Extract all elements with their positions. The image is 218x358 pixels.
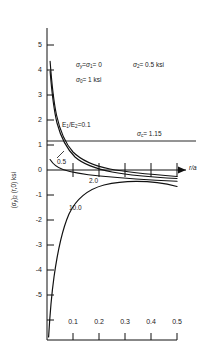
y-axis-title-sigma: σ (10, 202, 17, 206)
curve-label-leader-0-5 (57, 151, 64, 158)
x-axis-baseline-ticks (73, 333, 177, 340)
sigma-c-value: = 1.15 (143, 130, 161, 137)
curve-label-ratio-0-1: E1/E2=0.1 (62, 122, 91, 130)
curve-label-ratio-10-0: 10.0 (69, 205, 82, 212)
y-tick-label-3: 3 (28, 91, 42, 98)
sigma-c-label: σc= 1.15 (137, 131, 162, 139)
y-axis-title-tail: (r,0) ksi (10, 172, 17, 193)
y-tick-label-neg2: -2 (25, 216, 42, 223)
annotation-stress-row-3: σ0= 1 ksi (76, 77, 101, 85)
y-axis-title-open: ( (10, 206, 17, 208)
curve-ratio-10-0 (49, 181, 177, 337)
y-tick-label-2: 2 (28, 116, 42, 123)
sigma-0-value: = 1 ksi (83, 76, 102, 83)
y-tick-label-4: 4 (28, 66, 42, 73)
y-axis-title: (σy)2 (r,0) ksi (10, 145, 18, 235)
y-tick-label-1: 1 (28, 141, 42, 148)
y-tick-label-neg4: -4 (25, 266, 42, 273)
y-axis-ticks (47, 45, 54, 320)
y-tick-label-neg5: -5 (25, 291, 42, 298)
curve-ratio-0-1 (50, 61, 177, 176)
y-axis-title-sub-y: y (13, 200, 18, 202)
ratio-value-0-1: =0.1 (78, 121, 91, 128)
curve-label-ratio-2-0: 2.0 (89, 178, 98, 185)
x-axis-title: r/a (189, 165, 197, 172)
annotation-stress-row-1: σy=σ1= 0 (76, 62, 102, 70)
x-tick-label-0-3: 0.3 (115, 318, 135, 325)
y-axis-title-sub-2: 2 (13, 195, 18, 198)
sigma-1-value: = 0 (93, 61, 102, 68)
x-axis-arrowhead (178, 167, 186, 174)
x-tick-label-0-2: 0.2 (89, 318, 109, 325)
y-tick-label-neg3: -3 (25, 241, 42, 248)
y-tick-label-neg1: -1 (25, 191, 42, 198)
y-tick-label-5: 5 (28, 41, 42, 48)
x-tick-label-0-1: 0.1 (63, 318, 83, 325)
x-tick-label-0-4: 0.4 (141, 318, 161, 325)
annotation-stress-row-2: σ2= 0.5 ksi (133, 62, 164, 70)
plot-canvas (0, 0, 218, 358)
curve-label-ratio-0-5: 0.5 (57, 159, 66, 166)
y-tick-label-0: 0 (28, 166, 42, 173)
x-tick-label-0-5: 0.5 (167, 318, 187, 325)
stress-distribution-figure: 5 4 3 2 1 0 -1 -2 -3 -4 -5 0.1 0.2 0.3 0… (0, 0, 218, 358)
sigma-2-value: = 0.5 ksi (140, 61, 164, 68)
